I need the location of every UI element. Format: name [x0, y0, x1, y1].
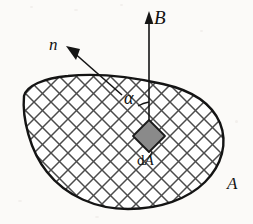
diagram-canvas: [0, 0, 253, 224]
b-arrowhead: [145, 11, 154, 24]
area-element-label: dA: [137, 153, 154, 168]
scan-speck: [200, 30, 203, 32]
scan-speck: [74, 9, 78, 11]
scan-speck: [95, 216, 99, 218]
angle-label: α: [124, 89, 133, 107]
n-arrowhead: [66, 46, 80, 60]
magnetic-field-label: B: [154, 8, 166, 27]
physics-diagram-figure: B n α dA A: [0, 0, 253, 224]
area-element-prefix: d: [137, 152, 145, 168]
surface-area-label: A: [227, 175, 237, 192]
scan-speck: [235, 120, 238, 123]
normal-vector-label: n: [49, 36, 58, 53]
scan-speck: [120, 4, 123, 6]
scan-speck: [30, 6, 33, 8]
scan-speck: [18, 200, 22, 202]
area-element-symbol: A: [145, 152, 154, 168]
